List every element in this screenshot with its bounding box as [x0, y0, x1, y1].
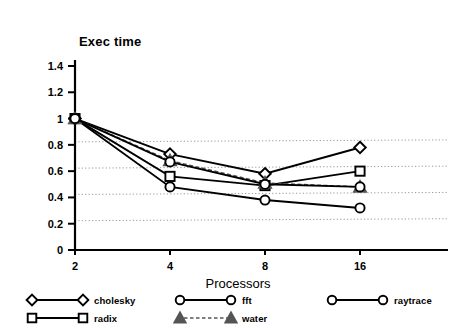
data-point-circle	[70, 114, 79, 123]
x-tick-label: 16	[354, 260, 366, 272]
legend-label: raytrace	[394, 295, 432, 306]
data-series-group	[69, 113, 366, 213]
data-point-circle	[165, 182, 174, 191]
x-tick-label: 2	[72, 260, 78, 272]
data-point-circle	[176, 296, 185, 305]
legend-label: water	[241, 313, 268, 324]
data-point-circle	[379, 296, 388, 305]
legend-label: fft	[242, 295, 253, 306]
y-tick-label: 0.6	[48, 165, 63, 177]
data-point-diamond	[354, 142, 366, 154]
legend-item-water[interactable]: water	[174, 312, 267, 323]
chart-figure: 00.20.40.60.811.21.4 24816 Exec timeProc…	[0, 0, 460, 330]
y-tick-label: 0	[57, 244, 63, 256]
x-axis-title: Processors	[205, 276, 271, 291]
chart-svg: 00.20.40.60.811.21.4 24816 Exec timeProc…	[0, 0, 460, 330]
series-water	[69, 113, 366, 192]
plot-area: 00.20.40.60.811.21.4 24816 Exec timeProc…	[0, 0, 460, 330]
y-tick-label: 1.2	[48, 86, 63, 98]
series-line	[75, 119, 360, 187]
data-point-circle	[260, 195, 269, 204]
legend-item-raytrace[interactable]: raytrace	[328, 295, 432, 306]
gridline	[75, 219, 448, 221]
series-line	[75, 119, 360, 186]
data-point-circle	[165, 157, 174, 166]
x-tick-label: 4	[167, 260, 174, 272]
legend-label: radix	[94, 313, 118, 324]
y-tick-label: 0.4	[48, 191, 64, 203]
series-line	[75, 119, 360, 174]
data-point-circle	[328, 296, 337, 305]
data-point-circle	[355, 182, 364, 191]
series-line	[75, 119, 360, 187]
axes	[75, 60, 448, 250]
data-point-square	[355, 167, 364, 176]
legend: choleskyfftraytraceradixwater	[27, 295, 432, 324]
legend-item-cholesky[interactable]: cholesky	[27, 295, 136, 306]
data-point-square	[28, 314, 37, 323]
data-point-square	[79, 314, 88, 323]
data-point-square	[165, 172, 174, 181]
data-point-circle	[355, 203, 364, 212]
x-axis-ticks: 24816	[72, 250, 366, 272]
legend-item-radix[interactable]: radix	[28, 313, 118, 324]
x-tick-label: 8	[262, 260, 268, 272]
data-point-diamond	[78, 295, 89, 306]
gridline	[75, 192, 448, 194]
y-axis-title: Exec time	[79, 34, 142, 49]
y-axis-ticks: 00.20.40.60.811.21.4	[48, 60, 75, 256]
y-tick-label: 0.2	[48, 218, 63, 230]
legend-label: cholesky	[94, 295, 136, 306]
y-tick-label: 0.8	[48, 139, 63, 151]
series-raytrace	[70, 114, 364, 192]
data-point-diamond	[27, 295, 38, 306]
gridline	[75, 166, 448, 168]
data-point-circle	[227, 296, 236, 305]
y-tick-label: 1.4	[48, 60, 64, 72]
y-tick-label: 1	[57, 113, 63, 125]
legend-item-fft[interactable]: fft	[176, 295, 253, 306]
series-radix	[70, 114, 364, 190]
data-point-circle	[260, 180, 269, 189]
data-point-triangle	[174, 312, 185, 322]
